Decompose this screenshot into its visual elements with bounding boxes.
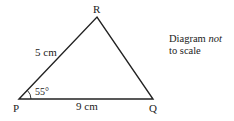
note-emphasis: not xyxy=(208,33,221,44)
vertex-label-p: P xyxy=(13,102,19,114)
vertex-label-q: Q xyxy=(149,102,157,114)
side-label-pq: 9 cm xyxy=(76,100,98,112)
angle-label-p: 55° xyxy=(35,86,49,97)
side-label-pr: 5 cm xyxy=(35,46,57,58)
triangle-diagram: R P Q 5 cm 9 cm 55° xyxy=(0,0,234,121)
note-line1: Diagram xyxy=(169,33,206,44)
vertex-label-r: R xyxy=(93,3,101,15)
not-to-scale-note: Diagram not to scale xyxy=(169,33,222,57)
note-line2: to scale xyxy=(169,45,201,56)
angle-arc-p xyxy=(27,90,31,99)
